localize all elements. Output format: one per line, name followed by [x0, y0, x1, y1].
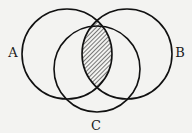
label-b: B: [175, 45, 185, 60]
label-c: C: [91, 118, 101, 133]
venn-diagram: A B C: [0, 0, 192, 133]
label-a: A: [7, 45, 18, 60]
venn-svg: A B C: [0, 0, 192, 133]
